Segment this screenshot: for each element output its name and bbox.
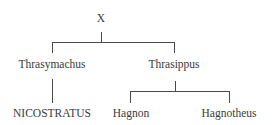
node-thrasymachus: Thrasymachus — [18, 58, 85, 70]
connector-thrasymachus-down — [52, 79, 53, 103]
node-nicostratus: NICOSTRATUS — [13, 107, 91, 119]
node-thrasippus: Thrasippus — [148, 58, 199, 70]
connector-to-thrasymachus — [52, 42, 53, 53]
connector-to-hagnon — [130, 91, 131, 103]
connector-to-thrasippus — [174, 42, 175, 53]
node-hagnotheus: Hagnotheus — [202, 107, 257, 119]
connector-thrasippus-horizontal — [130, 91, 230, 92]
node-root-x: X — [97, 12, 105, 24]
node-hagnon: Hagnon — [113, 107, 149, 119]
connector-root-horizontal — [52, 42, 175, 43]
connector-to-hagnotheus — [229, 91, 230, 103]
